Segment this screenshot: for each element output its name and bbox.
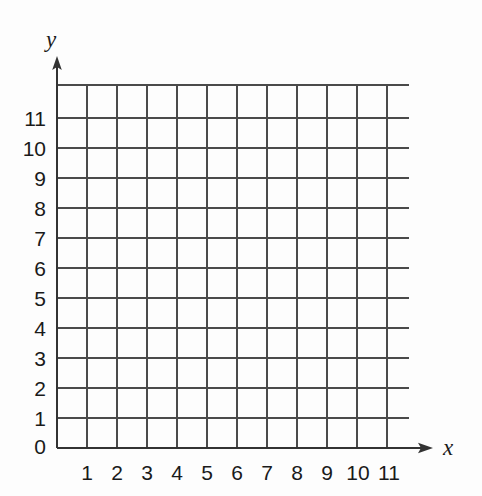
x-axis-line	[57, 443, 433, 453]
y-tick-label-11: 11	[2, 108, 46, 129]
y-tick-label-2: 2	[2, 378, 46, 399]
y-tick-label-0: 0	[2, 436, 46, 457]
y-tick-label-6: 6	[2, 258, 46, 279]
y-tick-label-5: 5	[2, 288, 46, 309]
x-tick-label-5: 5	[192, 462, 222, 483]
x-tick-label-9: 9	[312, 462, 342, 483]
coordinate-grid-figure: y x 11 10 9 8 7 6 5 4 3 2 1 0 1 2 3 4 5 …	[0, 0, 482, 496]
x-tick-label-3: 3	[132, 462, 162, 483]
grid-canvas	[0, 0, 482, 496]
x-tick-label-6: 6	[222, 462, 252, 483]
x-tick-label-11: 11	[374, 462, 404, 483]
x-tick-label-2: 2	[102, 462, 132, 483]
y-tick-label-4: 4	[2, 318, 46, 339]
y-tick-label-9: 9	[2, 168, 46, 189]
x-tick-label-7: 7	[252, 462, 282, 483]
x-tick-label-4: 4	[162, 462, 192, 483]
x-tick-label-8: 8	[282, 462, 312, 483]
y-tick-label-10: 10	[2, 138, 46, 159]
y-axis-label: y	[46, 28, 56, 51]
x-tick-label-10: 10	[343, 462, 373, 483]
y-tick-label-7: 7	[2, 228, 46, 249]
y-tick-label-1: 1	[2, 408, 46, 429]
x-axis-label: x	[443, 436, 453, 459]
vertical-grid-lines	[87, 85, 387, 448]
y-axis-line	[52, 56, 62, 448]
y-tick-label-3: 3	[2, 348, 46, 369]
x-tick-label-1: 1	[72, 462, 102, 483]
y-tick-label-8: 8	[2, 198, 46, 219]
